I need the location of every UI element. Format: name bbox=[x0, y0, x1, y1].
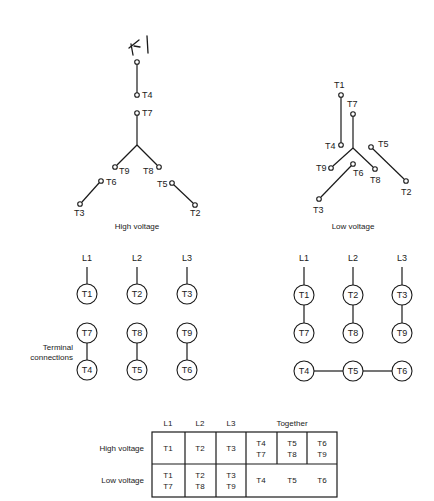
terminal-label: T9 bbox=[182, 328, 193, 338]
high-voltage-caption: High voltage bbox=[115, 222, 160, 231]
terminal-label: T9 bbox=[397, 328, 408, 338]
nine-lead-wye-motor-diagram: T4 T7 T9 T8 T6 T3 T5 T2 High voltage T1 … bbox=[0, 0, 434, 501]
table-cell: T8 bbox=[287, 450, 297, 459]
terminal-node-t4 bbox=[339, 143, 344, 148]
table-cell: T4 bbox=[256, 476, 266, 485]
label-t5: T5 bbox=[378, 139, 389, 149]
terminal-node-t8 bbox=[373, 167, 378, 172]
line-label-l1: L1 bbox=[299, 253, 309, 263]
terminal-node-t2 bbox=[404, 179, 409, 184]
table-cell: T4 bbox=[256, 439, 266, 448]
label-t6: T6 bbox=[106, 177, 117, 187]
label-t3: T3 bbox=[313, 205, 324, 215]
label-t4: T4 bbox=[325, 141, 336, 151]
label-t5: T5 bbox=[157, 179, 168, 189]
high-voltage-connections: L1 L2 L3 T1 T2 T3 T7 T8 T9 T4 T5 T6 Term… bbox=[30, 253, 197, 380]
terminal-label: T4 bbox=[82, 365, 93, 375]
terminal-node-t9 bbox=[329, 166, 334, 171]
high-voltage-wye: T4 T7 T9 T8 T6 T3 T5 T2 High voltage bbox=[74, 60, 201, 231]
terminal-label: T8 bbox=[132, 328, 143, 338]
terminal-label: T7 bbox=[82, 328, 93, 338]
label-t2: T2 bbox=[190, 208, 201, 218]
terminal-node-t7 bbox=[135, 111, 140, 116]
line-label-l3: L3 bbox=[397, 253, 407, 263]
terminal-label: T5 bbox=[348, 366, 359, 376]
table-row-label-low-voltage: Low voltage bbox=[101, 476, 144, 485]
table-cell: T3 bbox=[226, 444, 236, 453]
table-header-l2: L2 bbox=[196, 419, 205, 428]
label-t7: T7 bbox=[142, 108, 153, 118]
low-voltage-wye: T1 T4 T7 T9 T8 T6 T3 T5 T2 Low voltage bbox=[313, 80, 412, 231]
line-label-l2: L2 bbox=[348, 253, 358, 263]
handwritten-stroke bbox=[147, 36, 148, 53]
terminal-node-t3 bbox=[317, 197, 322, 202]
table-cell: T7 bbox=[163, 482, 173, 491]
terminal-node-t5 bbox=[369, 145, 374, 150]
terminal-label: T8 bbox=[348, 328, 359, 338]
table-cell: T8 bbox=[195, 482, 205, 491]
terminal-node-t2 bbox=[193, 203, 198, 208]
terminal-label: T2 bbox=[132, 289, 143, 299]
table-row-high-voltage: T1 T2 T3 T4 T7 T5 T8 T6 T9 bbox=[163, 439, 327, 459]
label-t6: T6 bbox=[353, 168, 364, 178]
table-row-label-high-voltage: High voltage bbox=[100, 444, 145, 453]
label-t9: T9 bbox=[316, 163, 327, 173]
terminal-label: T1 bbox=[299, 290, 310, 300]
terminal-label: T1 bbox=[82, 289, 93, 299]
label-t3: T3 bbox=[74, 208, 85, 218]
table-cell: T6 bbox=[317, 439, 327, 448]
terminal-label: T5 bbox=[132, 365, 143, 375]
terminal-node-t5 bbox=[170, 181, 175, 186]
label-t7: T7 bbox=[347, 99, 358, 109]
table-cell: T9 bbox=[226, 482, 236, 491]
low-voltage-caption: Low voltage bbox=[332, 222, 375, 231]
table-cell: T5 bbox=[287, 476, 297, 485]
terminal-node-t8 bbox=[157, 165, 162, 170]
table-cell: T7 bbox=[256, 450, 266, 459]
label-t8: T8 bbox=[143, 166, 154, 176]
table-cell: T1 bbox=[163, 444, 173, 453]
table-cell: T9 bbox=[317, 450, 327, 459]
low-voltage-connections: L1 L2 L3 T1 T2 T3 T7 T8 T9 T4 T5 T6 bbox=[294, 253, 412, 381]
label-t9: T9 bbox=[119, 166, 130, 176]
label-t1: T1 bbox=[334, 80, 345, 90]
table-row-low-voltage: T1 T7 T2 T8 T3 T9 T4 T5 T6 bbox=[163, 471, 327, 491]
table-cell: T3 bbox=[226, 471, 236, 480]
terminal-node-t1 bbox=[135, 60, 140, 65]
terminal-node-t4 bbox=[135, 93, 140, 98]
terminal-label: T6 bbox=[397, 366, 408, 376]
label-t4: T4 bbox=[142, 90, 153, 100]
terminal-node-t9 bbox=[113, 165, 118, 170]
label-t8: T8 bbox=[370, 175, 381, 185]
table-header-l3: L3 bbox=[227, 419, 236, 428]
table-header-together: Together bbox=[276, 419, 307, 428]
terminal-label: T2 bbox=[348, 290, 359, 300]
table-cell: T1 bbox=[163, 471, 173, 480]
table-cell: T5 bbox=[287, 439, 297, 448]
terminal-label: T4 bbox=[299, 366, 310, 376]
terminal-label: T3 bbox=[182, 289, 193, 299]
terminal-node-t6 bbox=[99, 179, 104, 184]
table-cell: T2 bbox=[195, 471, 205, 480]
terminal-label: T3 bbox=[397, 290, 408, 300]
line-label-l3: L3 bbox=[182, 253, 192, 263]
terminal-node-t6 bbox=[351, 162, 356, 167]
connection-table: L1 L2 L3 Together High voltage Low volta… bbox=[100, 419, 337, 497]
terminal-label: T7 bbox=[299, 328, 310, 338]
terminal-connections-label-line1: Terminal bbox=[43, 343, 73, 352]
label-t2: T2 bbox=[401, 187, 412, 197]
terminal-label: T6 bbox=[182, 365, 193, 375]
table-cell: T2 bbox=[195, 444, 205, 453]
line-label-l2: L2 bbox=[132, 253, 142, 263]
terminal-node-t1 bbox=[339, 93, 344, 98]
terminal-connections-label-line2: connections bbox=[30, 353, 73, 362]
table-cell: T6 bbox=[317, 476, 327, 485]
terminal-node-t3 bbox=[78, 202, 83, 207]
handwritten-annotation bbox=[129, 36, 148, 55]
line-label-l1: L1 bbox=[82, 253, 92, 263]
table-header-l1: L1 bbox=[164, 419, 173, 428]
terminal-node-t7 bbox=[351, 112, 356, 117]
handwritten-stroke bbox=[134, 46, 140, 47]
